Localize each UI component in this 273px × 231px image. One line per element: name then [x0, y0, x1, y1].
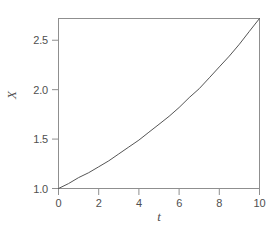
data-series-line — [59, 19, 260, 189]
x-axis-tick-marks — [59, 189, 260, 196]
y-tick-label-3: 2.5 — [24, 34, 48, 46]
x-axis-title: t — [157, 209, 161, 225]
x-tick-label-1: 2 — [96, 197, 102, 209]
x-tick-label-0: 0 — [56, 197, 62, 209]
x-tick-label-2: 4 — [136, 197, 142, 209]
y-axis-title: X — [4, 91, 20, 99]
axes-frame — [59, 19, 260, 189]
y-axis-tick-marks — [52, 40, 59, 188]
y-tick-label-1: 1.5 — [24, 133, 48, 145]
y-tick-label-0: 1.0 — [24, 183, 48, 195]
x-tick-label-4: 8 — [216, 197, 222, 209]
y-tick-label-2: 2.0 — [24, 84, 48, 96]
x-tick-label-3: 6 — [176, 197, 182, 209]
chart-figure: 1.0 1.5 2.0 2.5 0 2 4 6 8 10 X t — [0, 0, 273, 231]
x-tick-label-5: 10 — [254, 197, 266, 209]
